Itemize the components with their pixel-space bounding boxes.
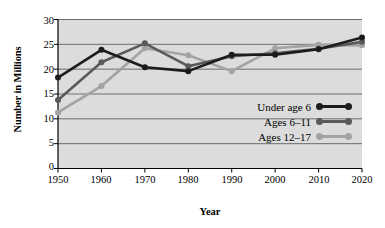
data-point [185, 68, 191, 74]
legend-swatch-ages-12-17 [316, 131, 352, 142]
data-point [55, 109, 61, 115]
legend-marker [345, 133, 352, 140]
data-point [229, 68, 235, 74]
legend: Under age 6 Ages 6–11 Ages 12–17 [204, 99, 352, 144]
line-chart: Number in Millions Year 30 25 20 15 10 5… [0, 0, 385, 228]
legend-label: Under age 6 [257, 101, 311, 113]
data-point [142, 40, 148, 46]
legend-label: Ages 6–11 [264, 116, 311, 128]
legend-marker [316, 133, 323, 140]
legend-swatch-under-age-6 [316, 101, 352, 112]
data-point [98, 47, 104, 53]
legend-swatch-ages-6-11 [316, 116, 352, 127]
legend-item: Ages 12–17 [204, 129, 352, 144]
legend-marker [345, 103, 352, 110]
data-point [316, 46, 322, 52]
data-point [98, 59, 104, 65]
data-point [55, 97, 61, 103]
legend-marker [316, 103, 323, 110]
data-point [359, 34, 365, 40]
data-point [98, 83, 104, 89]
data-point [142, 64, 148, 70]
legend-item: Under age 6 [204, 99, 352, 114]
data-point [229, 52, 235, 58]
legend-label: Ages 12–17 [258, 131, 311, 143]
data-point [185, 52, 191, 58]
legend-marker [345, 118, 352, 125]
legend-item: Ages 6–11 [204, 114, 352, 129]
legend-marker [316, 118, 323, 125]
data-point [55, 75, 61, 81]
data-point [272, 52, 278, 58]
